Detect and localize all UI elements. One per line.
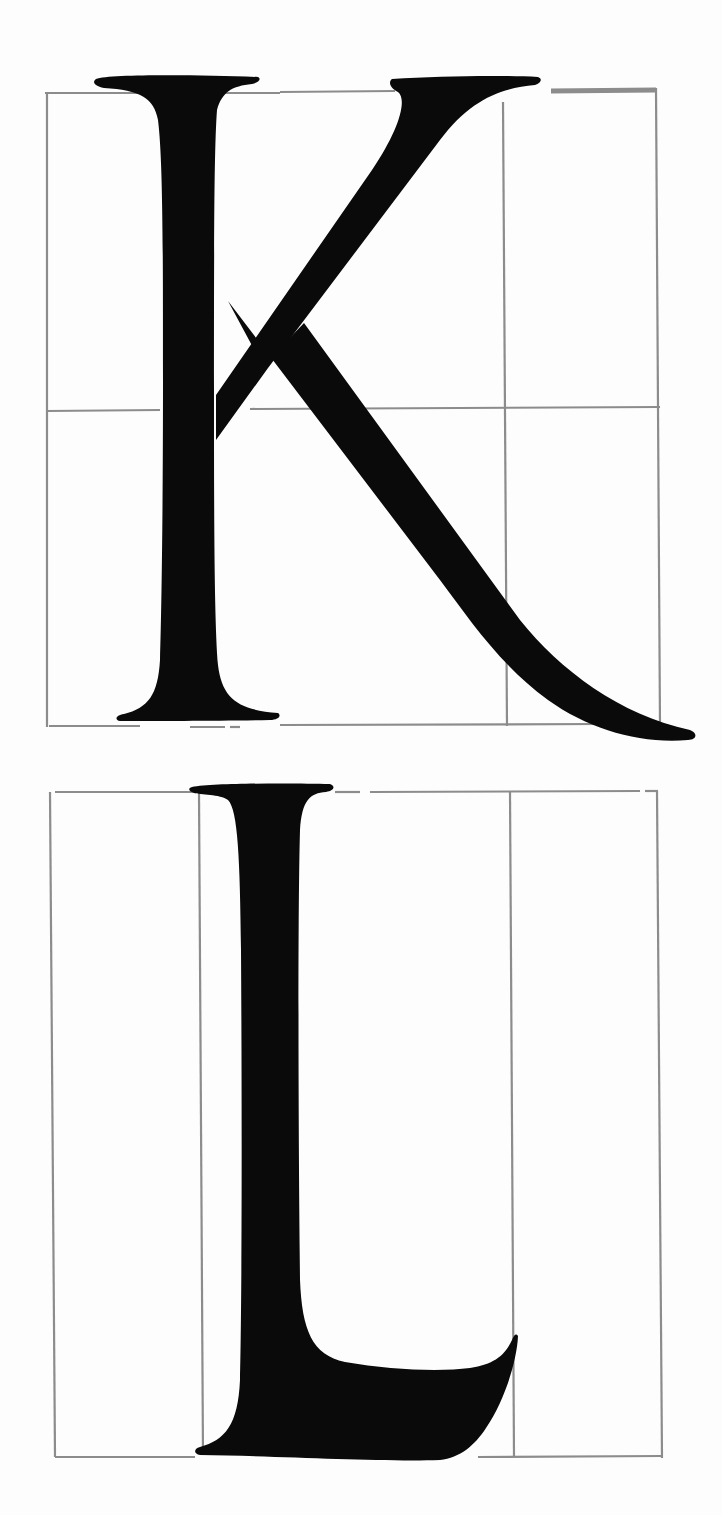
letter-k-panel: K [0,0,722,760]
l-grid [50,791,662,1458]
letter-k-drawing [0,0,722,760]
letter-l-drawing [0,760,722,1515]
l-glyph [189,783,518,1460]
letter-l-panel: L [0,760,722,1515]
